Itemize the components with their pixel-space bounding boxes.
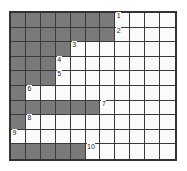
empty-cell: 5 — [56, 71, 71, 86]
empty-cell: 4 — [56, 57, 71, 72]
empty-cell — [130, 101, 145, 116]
empty-cell — [160, 57, 175, 72]
filled-cell — [26, 144, 41, 159]
row-label: 3 — [72, 41, 77, 49]
empty-cell — [71, 57, 86, 72]
empty-cell — [115, 57, 130, 72]
filled-cell — [100, 13, 115, 28]
empty-cell: 10 — [86, 144, 101, 159]
empty-cell — [86, 42, 101, 57]
empty-cell — [41, 130, 56, 145]
empty-cell — [160, 144, 175, 159]
filled-cell — [86, 101, 101, 116]
filled-cell — [41, 71, 56, 86]
empty-cell — [145, 13, 160, 28]
empty-cell — [71, 71, 86, 86]
empty-cell — [130, 71, 145, 86]
empty-cell — [160, 130, 175, 145]
filled-cell — [71, 144, 86, 159]
staircase-grid: 12345678910 — [9, 11, 177, 161]
empty-cell — [56, 130, 71, 145]
empty-cell — [56, 86, 71, 101]
empty-cell — [130, 144, 145, 159]
empty-cell — [100, 71, 115, 86]
empty-cell — [130, 13, 145, 28]
empty-cell — [145, 115, 160, 130]
empty-cell — [71, 86, 86, 101]
filled-cell — [26, 57, 41, 72]
empty-cell — [26, 130, 41, 145]
row-label: 4 — [57, 56, 62, 64]
filled-cell — [56, 101, 71, 116]
filled-cell — [11, 86, 26, 101]
empty-cell — [160, 115, 175, 130]
filled-cell — [86, 28, 101, 43]
empty-cell — [115, 144, 130, 159]
filled-cell — [100, 28, 115, 43]
empty-cell — [86, 57, 101, 72]
empty-cell — [41, 115, 56, 130]
filled-cell — [26, 101, 41, 116]
filled-cell — [86, 13, 101, 28]
filled-cell — [11, 42, 26, 57]
empty-cell — [130, 86, 145, 101]
filled-cell — [41, 144, 56, 159]
empty-cell — [100, 57, 115, 72]
empty-cell — [86, 115, 101, 130]
empty-cell — [86, 71, 101, 86]
filled-cell — [26, 42, 41, 57]
empty-cell — [145, 86, 160, 101]
filled-cell — [71, 101, 86, 116]
empty-cell — [130, 42, 145, 57]
filled-cell — [56, 144, 71, 159]
empty-cell — [160, 86, 175, 101]
row-label: 5 — [57, 70, 62, 78]
filled-cell — [41, 101, 56, 116]
empty-cell: 1 — [115, 13, 130, 28]
row-label: 8 — [27, 114, 32, 122]
empty-cell — [130, 115, 145, 130]
empty-cell: 7 — [100, 101, 115, 116]
empty-cell — [160, 42, 175, 57]
empty-cell — [71, 130, 86, 145]
row-label: 1 — [116, 12, 121, 20]
empty-cell — [160, 28, 175, 43]
empty-cell — [115, 86, 130, 101]
empty-cell — [100, 115, 115, 130]
empty-cell: 6 — [26, 86, 41, 101]
empty-cell — [71, 115, 86, 130]
empty-cell — [130, 130, 145, 145]
empty-cell — [115, 130, 130, 145]
filled-cell — [11, 115, 26, 130]
empty-cell: 8 — [26, 115, 41, 130]
empty-cell — [130, 57, 145, 72]
empty-cell — [115, 115, 130, 130]
empty-cell — [100, 86, 115, 101]
empty-cell — [145, 130, 160, 145]
row-label: 6 — [27, 85, 32, 93]
empty-cell — [100, 42, 115, 57]
filled-cell — [11, 144, 26, 159]
filled-cell — [11, 71, 26, 86]
filled-cell — [71, 13, 86, 28]
empty-cell — [145, 144, 160, 159]
empty-cell — [145, 42, 160, 57]
filled-cell — [41, 28, 56, 43]
filled-cell — [56, 42, 71, 57]
filled-cell — [41, 42, 56, 57]
empty-cell — [115, 101, 130, 116]
filled-cell — [71, 28, 86, 43]
row-label: 7 — [101, 100, 106, 108]
empty-cell — [130, 28, 145, 43]
empty-cell — [86, 130, 101, 145]
empty-cell — [145, 71, 160, 86]
empty-cell — [145, 57, 160, 72]
empty-cell — [100, 144, 115, 159]
filled-cell — [26, 28, 41, 43]
filled-cell — [26, 71, 41, 86]
filled-cell — [11, 101, 26, 116]
empty-cell — [56, 115, 71, 130]
filled-cell — [11, 13, 26, 28]
empty-cell — [145, 28, 160, 43]
filled-cell — [11, 57, 26, 72]
